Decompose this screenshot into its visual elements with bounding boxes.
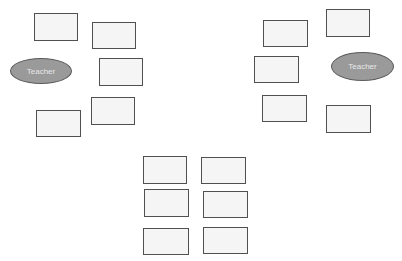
desk-center-2 (201, 157, 246, 184)
teacher-ellipse-left: Teacher (10, 58, 72, 84)
desk-center-5 (143, 228, 189, 255)
desk-center-4 (203, 191, 248, 218)
desk-right-2 (326, 9, 370, 37)
desk-center-1 (143, 156, 187, 184)
desk-right-5 (326, 105, 371, 133)
desk-left-3 (99, 58, 143, 86)
desk-left-2 (92, 22, 136, 49)
desk-left-5 (36, 110, 81, 137)
teacher-ellipse-right: Teacher (331, 52, 394, 81)
desk-left-1 (34, 13, 78, 41)
desk-center-3 (144, 189, 189, 217)
desk-right-4 (262, 95, 307, 122)
desk-right-3 (254, 56, 299, 83)
desk-left-4 (91, 97, 135, 125)
desk-center-6 (203, 227, 248, 254)
desk-right-1 (263, 20, 308, 47)
